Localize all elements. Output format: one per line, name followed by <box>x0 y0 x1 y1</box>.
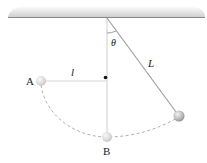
ball-a <box>36 76 46 86</box>
pendulum-diagram: A B l L θ <box>0 0 207 163</box>
label-angle-theta: θ <box>111 37 116 48</box>
label-a: A <box>26 75 34 87</box>
angle-arc <box>107 31 116 33</box>
ceiling <box>8 6 205 18</box>
ball-b <box>102 132 112 142</box>
ball-swinging <box>174 111 185 122</box>
pendulum-string <box>107 18 176 112</box>
label-b: B <box>103 145 110 157</box>
swing-path-dashed <box>41 85 177 137</box>
label-long-length: L <box>147 57 154 69</box>
ceiling-shade <box>8 6 205 17</box>
peg-dot <box>104 76 108 80</box>
label-short-length: l <box>71 66 74 78</box>
